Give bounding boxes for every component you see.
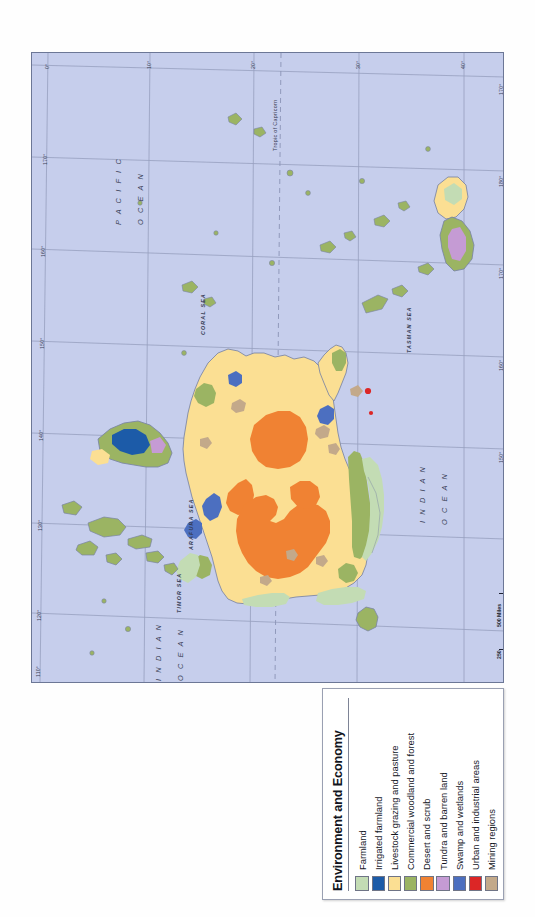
legend-swatch-farmland <box>355 876 368 891</box>
lon-tick-left-0: 170° <box>42 153 48 165</box>
legend-item-farmland[interactable]: Farmland <box>354 698 370 891</box>
legend-label-commercial-woodland: Commercial woodland and forest <box>405 733 416 870</box>
lat-tick-4: 40° <box>460 61 466 69</box>
australia-mainland <box>176 345 384 607</box>
water-label-indian-west-1: I N D I A N <box>154 623 163 681</box>
legend-label-urban-industrial: Urban and industrial areas <box>470 760 481 870</box>
region-urban-ne <box>365 388 371 394</box>
island-new-zealand <box>434 177 474 271</box>
tropic-of-capricorn-label: Tropic of Capricorn <box>272 100 278 151</box>
legend-swatch-mining-regions <box>485 876 498 891</box>
legend-label-farmland: Farmland <box>357 830 368 870</box>
water-label-coral-sea: CORAL SEA <box>200 293 206 335</box>
legend-item-irrigated-farmland[interactable]: Irrigated farmland <box>370 698 386 891</box>
water-label-timor-sea: TIMOR SEA <box>176 573 182 613</box>
island-new-guinea <box>90 421 172 467</box>
lon-tick-right-2: 170° <box>498 267 504 279</box>
legend-item-mining-regions[interactable]: Mining regions <box>484 698 500 891</box>
legend-panel[interactable]: Environment and Economy Farmland Irrigat… <box>322 688 504 900</box>
lon-tick-left-5: 120° <box>36 609 42 621</box>
legend-item-urban-industrial[interactable]: Urban and industrial areas <box>467 698 483 891</box>
legend-label-irrigated-farmland: Irrigated farmland <box>373 797 384 870</box>
legend-swatch-tundra-barren <box>436 876 449 891</box>
water-label-arafura-sea: ARAFURA SEA <box>188 498 194 550</box>
lon-tick-left-4: 130° <box>37 519 43 531</box>
legend-swatch-desert-scrub <box>420 876 433 891</box>
legend-label-livestock-grazing: Livestock grazing and pasture <box>389 745 400 870</box>
water-label-pacific-2: O C E A N <box>136 172 145 225</box>
legend-item-commercial-woodland[interactable]: Commercial woodland and forest <box>403 698 419 891</box>
scale-bar: 0 250 500 Miles 0 250 500 Kilometers <box>498 593 504 683</box>
map-landmass-layer <box>32 53 504 683</box>
map-page: P A C I F I C O C E A N CORAL SEA TASMAN… <box>0 0 535 917</box>
legend-label-tundra-barren: Tundra and barren land <box>438 772 449 870</box>
water-label-indian-west-2: O C E A N <box>176 628 185 681</box>
water-label-pacific-1: P A C I F I C <box>114 157 123 225</box>
legend-item-swamp-wetlands[interactable]: Swamp and wetlands <box>451 698 467 891</box>
legend-swatch-irrigated-farmland <box>372 876 385 891</box>
legend-item-desert-scrub[interactable]: Desert and scrub <box>419 698 435 891</box>
region-mining-8 <box>350 385 363 397</box>
island-group-melanesia <box>362 263 434 313</box>
scale-miles-500: 500 Miles <box>496 604 502 627</box>
water-label-tasman-sea: TASMAN SEA <box>406 306 412 353</box>
lat-tick-1: 10° <box>146 61 152 69</box>
water-label-indian-east-2: O C E A N <box>440 472 449 525</box>
water-label-indian-east-1: I N D I A N <box>418 465 427 523</box>
lon-tick-left-3: 140° <box>38 429 44 441</box>
lat-tick-3: 30° <box>355 61 361 69</box>
region-urban-e <box>369 411 373 415</box>
legend-item-tundra-barren[interactable]: Tundra and barren land <box>435 698 451 891</box>
legend-label-mining-regions: Mining regions <box>486 809 497 870</box>
lon-tick-right-3: 160° <box>498 359 504 371</box>
legend-swatch-swamp-wetlands <box>453 876 466 891</box>
lon-tick-left-2: 150° <box>39 337 45 349</box>
legend-swatch-commercial-woodland <box>404 876 417 891</box>
legend-item-livestock-grazing[interactable]: Livestock grazing and pasture <box>386 698 402 891</box>
island-group-indonesia <box>62 501 178 575</box>
legend-swatch-livestock-grazing <box>388 876 401 891</box>
lat-tick-2: 20° <box>250 61 256 69</box>
lon-tick-right-4: 150° <box>498 451 504 463</box>
legend-rotated-content: Environment and Economy Farmland Irrigat… <box>323 689 504 900</box>
legend-title: Environment and Economy <box>331 698 345 891</box>
lat-tick-0: 0° <box>44 64 50 69</box>
scale-bar-miles-axis <box>503 593 504 683</box>
lon-tick-left-1: 160° <box>40 245 46 257</box>
legend-label-swamp-wetlands: Swamp and wetlands <box>454 781 465 870</box>
lon-tick-right-1: 180° <box>498 175 504 187</box>
map-canvas[interactable]: P A C I F I C O C E A N CORAL SEA TASMAN… <box>31 52 504 683</box>
scale-miles-250: 250 <box>496 650 502 659</box>
lon-tick-right-0: 170° <box>498 83 504 95</box>
island-tasmania <box>356 607 378 631</box>
legend-label-desert-scrub: Desert and scrub <box>421 799 432 870</box>
legend-swatch-urban-industrial <box>469 876 482 891</box>
lon-tick-left-6: 110° <box>35 666 41 677</box>
legend-divider <box>348 698 349 891</box>
